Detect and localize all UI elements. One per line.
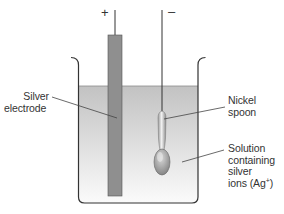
nickel-spoon-bowl — [154, 149, 170, 175]
nickel-spoon-handle — [158, 111, 166, 150]
label-solution: Solution containing silver ions (Ag+) — [228, 143, 275, 189]
label-line: Silver — [23, 91, 49, 103]
label-nickel-spoon: Nickel spoon — [228, 95, 256, 118]
label-silver-electrode-2: electrode — [4, 103, 46, 115]
label-line: ions (Ag+) — [228, 178, 275, 190]
negative-terminal-sign: – — [168, 5, 175, 18]
label-silver-electrode: Silver — [23, 91, 49, 103]
solution — [79, 86, 199, 203]
label-line: electrode — [4, 103, 46, 115]
ion-text: ions (Ag — [228, 177, 266, 189]
ion-close: ) — [270, 177, 273, 189]
positive-terminal-sign: + — [101, 6, 109, 19]
label-line: spoon — [228, 107, 256, 119]
label-line: Nickel — [228, 95, 256, 107]
label-line: Solution — [228, 143, 275, 155]
